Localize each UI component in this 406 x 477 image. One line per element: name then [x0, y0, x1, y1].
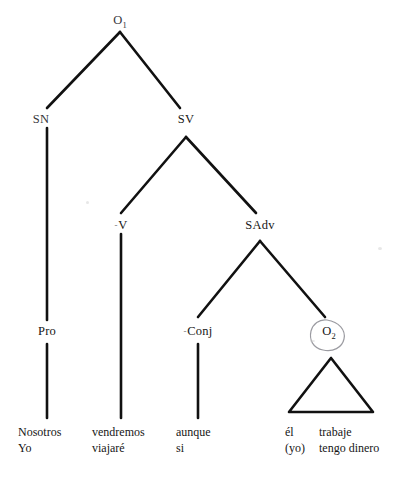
- branch-o1-sn: [47, 32, 120, 108]
- node-pro: Pro: [38, 325, 56, 338]
- node-o1: O1: [113, 14, 126, 29]
- node-v-lead-mark: -: [115, 221, 118, 230]
- paper-speck-center: [86, 201, 89, 204]
- terminal-subject-line1: Nosotros: [18, 425, 61, 439]
- terminal-verb-line2: viajaré: [92, 440, 145, 456]
- terminal-embedded-row2: (yo)tengo dinero: [285, 440, 379, 456]
- paper-speck-o2: [310, 340, 315, 342]
- branch-o1-sv: [120, 32, 180, 108]
- terminal-embedded-subject-line1: él: [285, 424, 319, 440]
- branch-sadv-o2: [260, 241, 325, 317]
- tree-branches: [0, 0, 406, 477]
- node-sn: SN: [33, 113, 49, 126]
- terminal-subject: Nosotros Yo: [18, 424, 61, 456]
- node-conj-lead-mark: -: [184, 327, 187, 336]
- node-o2: O2: [322, 325, 335, 340]
- node-v: -V: [115, 219, 128, 232]
- terminal-embedded-predicate-line1: trabaje: [319, 425, 352, 439]
- terminal-embedded-predicate-line2: tengo dinero: [319, 441, 379, 455]
- syntax-tree-diagram: O1 SN SV -V SAdv Pro -Conj O2 Nosotros Y…: [0, 0, 406, 477]
- branch-sv-sadv: [186, 137, 256, 213]
- node-sadv: SAdv: [245, 219, 274, 232]
- terminal-conjunction-line2: si: [176, 440, 211, 456]
- terminal-embedded-clause: éltrabaje (yo)tengo dinero: [285, 424, 379, 456]
- terminal-verb-line1: vendremos: [92, 425, 145, 439]
- terminal-embedded-row1: éltrabaje: [285, 424, 379, 440]
- node-sv: SV: [178, 113, 194, 126]
- embedded-clause-triangle: [289, 358, 373, 412]
- terminal-conjunction: aunque si: [176, 424, 211, 456]
- terminal-conjunction-line1: aunque: [176, 425, 211, 439]
- paper-speck-right: [378, 247, 382, 250]
- terminal-subject-line2: Yo: [18, 440, 61, 456]
- terminal-verb: vendremos viajaré: [92, 424, 145, 456]
- branch-sv-v: [121, 137, 186, 213]
- terminal-embedded-subject-line2: (yo): [285, 440, 319, 456]
- branch-sadv-conj: [198, 241, 260, 317]
- node-conj: -Conj: [184, 325, 213, 338]
